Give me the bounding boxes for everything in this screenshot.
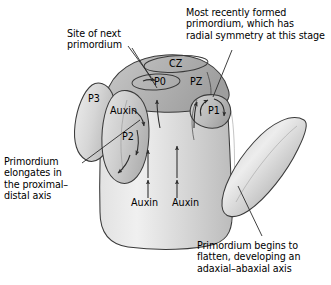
label-p0: P0 — [154, 76, 166, 87]
flattened-leaf-outline — [222, 118, 306, 217]
caption-site-of-next-primordium: Site of next primordium — [67, 28, 163, 51]
caption-most-recently-formed-primordium: Most recently formed primordium, which h… — [186, 7, 331, 41]
primordium-flattened-leaf — [222, 118, 306, 217]
label-p1: P1 — [208, 105, 220, 116]
label-pz: PZ — [190, 76, 202, 87]
label-auxin-stem-right: Auxin — [172, 197, 199, 208]
label-auxin-stem-left: Auxin — [131, 197, 158, 208]
caption-primordium-elongates: Primordium elongates in the proximal– di… — [4, 156, 96, 202]
caption-primordium-flattens: Primordium begins to flatten, developing… — [197, 240, 331, 274]
label-cz: CZ — [169, 58, 182, 69]
label-p3: P3 — [88, 93, 100, 104]
figure-root: Site of next primordium Most recently fo… — [0, 0, 331, 285]
label-p2: P2 — [122, 131, 134, 142]
label-auxin-primordium: Auxin — [110, 105, 137, 116]
